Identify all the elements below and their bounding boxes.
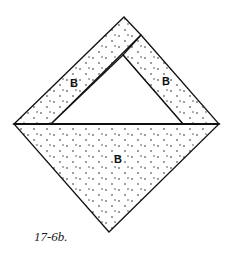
label-right-strip: B — [162, 75, 170, 87]
label-bottom-triangle: B — [114, 153, 122, 165]
label-left-strip: B — [70, 77, 78, 89]
quilt-block-diagram: B B B — [0, 0, 233, 255]
figure-caption: 17-6b. — [34, 229, 68, 245]
bottom-triangle — [14, 124, 219, 232]
